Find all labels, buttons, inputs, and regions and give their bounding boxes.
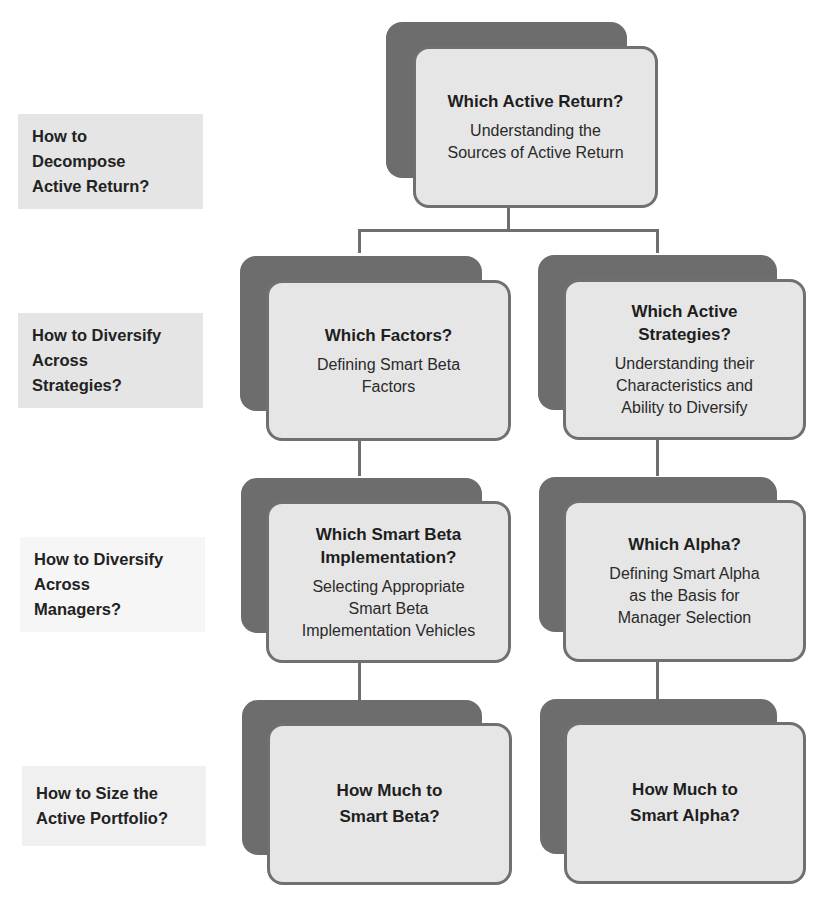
node-title-line: Strategies? xyxy=(631,323,737,346)
node-title: How Much to Smart Beta? xyxy=(337,778,443,830)
node-subtitle: Understanding their Characteristics and … xyxy=(615,353,755,419)
node-title-line: Smart Beta? xyxy=(337,804,443,830)
node-subtitle-line: Sources of Active Return xyxy=(447,142,623,164)
factors-node: Which Factors? Defining Smart Beta Facto… xyxy=(266,280,511,441)
row-label-line: Across xyxy=(32,348,203,373)
connector-horizontal xyxy=(358,229,659,232)
node-title: How Much to Smart Alpha? xyxy=(630,777,740,829)
connector-left-row3-row4 xyxy=(358,660,361,700)
node-title-line: Which Factors? xyxy=(325,324,453,347)
node-subtitle-line: Characteristics and xyxy=(615,375,755,397)
node-subtitle-line: Smart Beta xyxy=(302,598,475,620)
connector-right-drop xyxy=(656,229,659,253)
node-subtitle-line: Understanding the xyxy=(447,120,623,142)
node-title-line: Which Active xyxy=(631,300,737,323)
row-label-line: How to Diversify xyxy=(32,323,203,348)
size-beta-node: How Much to Smart Beta? xyxy=(267,723,512,885)
node-subtitle-line: Defining Smart Alpha xyxy=(609,563,759,585)
node-title-line: How Much to xyxy=(337,778,443,804)
row-label-line: How to Size the xyxy=(36,781,206,806)
row-label-line: Across xyxy=(34,572,205,597)
node-title: Which Alpha? xyxy=(628,533,741,556)
node-subtitle-line: Implementation Vehicles xyxy=(302,620,475,642)
node-subtitle: Defining Smart Alpha as the Basis for Ma… xyxy=(609,563,759,629)
node-subtitle-line: Understanding their xyxy=(615,353,755,375)
row-label-line: How to xyxy=(32,124,203,149)
row-label-line: Active Portfolio? xyxy=(36,806,206,831)
node-subtitle: Understanding the Sources of Active Retu… xyxy=(447,120,623,164)
connector-right-row2-row3 xyxy=(656,437,659,476)
row-label-line: Active Return? xyxy=(32,174,203,199)
node-title-line: How Much to xyxy=(630,777,740,803)
node-title-line: Which Smart Beta xyxy=(316,523,461,546)
node-title-line: Which Active Return? xyxy=(448,90,624,113)
node-subtitle-line: Manager Selection xyxy=(609,607,759,629)
node-subtitle-line: Selecting Appropriate xyxy=(302,576,475,598)
root-node: Which Active Return? Understanding the S… xyxy=(413,46,658,208)
node-subtitle-line: as the Basis for xyxy=(609,585,759,607)
row-label-size-portfolio: How to Size the Active Portfolio? xyxy=(22,766,206,846)
node-title-line: Smart Alpha? xyxy=(630,803,740,829)
node-title: Which Factors? xyxy=(325,324,453,347)
row-label-line: Managers? xyxy=(34,597,205,622)
node-title: Which Active Strategies? xyxy=(631,300,737,346)
node-title: Which Active Return? xyxy=(448,90,624,113)
connector-root-down xyxy=(507,205,510,232)
node-subtitle-line: Factors xyxy=(317,376,460,398)
active-strategies-node: Which Active Strategies? Understanding t… xyxy=(563,279,806,440)
connector-right-row3-row4 xyxy=(656,660,659,700)
connector-left-row2-row3 xyxy=(358,438,361,476)
row-label-decompose: How to Decompose Active Return? xyxy=(18,114,203,209)
row-label-diversify-strategies: How to Diversify Across Strategies? xyxy=(18,313,203,408)
size-alpha-node: How Much to Smart Alpha? xyxy=(564,722,806,884)
node-subtitle: Selecting Appropriate Smart Beta Impleme… xyxy=(302,576,475,642)
node-title-line: Which Alpha? xyxy=(628,533,741,556)
row-label-line: Decompose xyxy=(32,149,203,174)
row-label-line: How to Diversify xyxy=(34,547,205,572)
alpha-node: Which Alpha? Defining Smart Alpha as the… xyxy=(563,500,806,662)
smart-beta-impl-node: Which Smart Beta Implementation? Selecti… xyxy=(266,501,511,663)
node-title: Which Smart Beta Implementation? xyxy=(316,523,461,569)
node-title-line: Implementation? xyxy=(316,546,461,569)
row-label-line: Strategies? xyxy=(32,373,203,398)
node-subtitle-line: Defining Smart Beta xyxy=(317,354,460,376)
row-label-diversify-managers: How to Diversify Across Managers? xyxy=(20,537,205,632)
node-subtitle-line: Ability to Diversify xyxy=(615,397,755,419)
node-subtitle: Defining Smart Beta Factors xyxy=(317,354,460,398)
connector-left-drop xyxy=(358,229,361,253)
